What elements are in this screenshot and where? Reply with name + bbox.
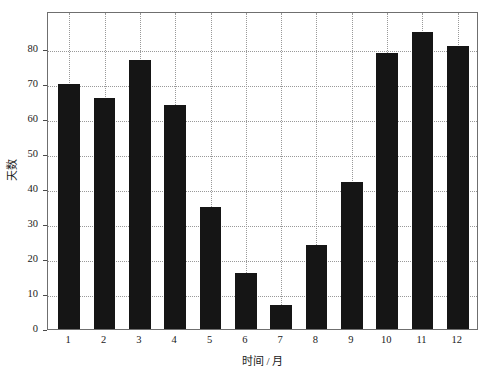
y-tick-label: 80 bbox=[0, 44, 38, 54]
plot-area bbox=[47, 12, 478, 330]
x-tick-label: 6 bbox=[230, 334, 260, 346]
bar bbox=[412, 32, 434, 329]
chart-figure: 天数 01020304050607080 123456789101112 时间 … bbox=[0, 0, 491, 382]
x-tick-label: 8 bbox=[300, 334, 330, 346]
x-tick-label: 2 bbox=[89, 334, 119, 346]
y-tick-label: 60 bbox=[0, 114, 38, 124]
bar bbox=[270, 305, 292, 329]
y-axis-title-text: 天数 bbox=[3, 159, 19, 181]
bar-series bbox=[48, 13, 477, 329]
bar bbox=[58, 84, 80, 329]
x-tick-label: 10 bbox=[371, 334, 401, 346]
y-tick-mark bbox=[43, 330, 47, 331]
bar bbox=[235, 273, 257, 329]
x-tick-label: 11 bbox=[406, 334, 436, 346]
bar bbox=[447, 46, 469, 329]
x-tick-label: 1 bbox=[53, 334, 83, 346]
bar bbox=[200, 207, 222, 329]
y-tick-label: 40 bbox=[0, 184, 38, 194]
y-tick-label: 0 bbox=[0, 324, 38, 334]
y-tick-label: 30 bbox=[0, 219, 38, 229]
x-tick-label: 7 bbox=[265, 334, 295, 346]
x-tick-label: 3 bbox=[124, 334, 154, 346]
x-axis-title: 时间 / 月 bbox=[47, 352, 478, 368]
y-tick-label: 10 bbox=[0, 289, 38, 299]
bar bbox=[341, 182, 363, 329]
bar bbox=[164, 105, 186, 329]
y-tick-label: 20 bbox=[0, 254, 38, 264]
bar bbox=[129, 60, 151, 329]
bar bbox=[94, 98, 116, 329]
x-tick-label: 5 bbox=[195, 334, 225, 346]
x-tick-label: 12 bbox=[442, 334, 472, 346]
y-tick-label: 50 bbox=[0, 149, 38, 159]
bar bbox=[376, 53, 398, 329]
x-tick-label: 9 bbox=[336, 334, 366, 346]
y-tick-label: 70 bbox=[0, 79, 38, 89]
bar bbox=[306, 245, 328, 329]
x-tick-label: 4 bbox=[159, 334, 189, 346]
